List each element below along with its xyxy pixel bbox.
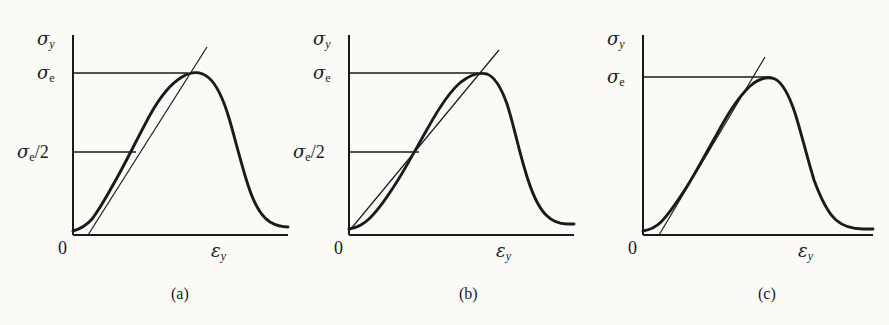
figure-stress-strain-sigma-e-definitions: σy σe σe/2 0 εy (a) σy σe σe/2 0 εy (b) [0,0,889,325]
panel-b-stress-strain-curve [349,73,574,229]
panel-c: σy σe 0 εy (c) [593,0,889,325]
panel-c-tangent-line [659,57,765,235]
panel-a: σy σe σe/2 0 εy (a) [0,0,296,325]
panel-c-stress-strain-curve [643,78,873,231]
panel-b-caption: (b) [459,286,478,302]
panel-b-sigma-e-label: σe [313,64,331,84]
panel-a-y-axis-label: σy [37,30,55,50]
panel-b: σy σe σe/2 0 εy (b) [296,0,592,325]
panel-b-plot [296,0,592,325]
panel-c-y-axis-label: σy [607,30,625,50]
panel-a-x-axis-label: εy [211,242,226,262]
panel-a-caption: (a) [171,286,189,302]
panel-c-sigma-e-label: σe [607,68,625,88]
panel-b-secant-line [350,50,499,230]
panel-c-x-axis-label: εy [798,242,813,262]
panel-c-plot [593,0,889,325]
panel-b-origin-label: 0 [334,239,343,257]
panel-c-origin-label: 0 [628,239,637,257]
panel-b-y-axis-label: σy [313,30,331,50]
panel-a-sigma-e-half-label: σe/2 [17,143,49,163]
panel-b-sigma-e-half-label: σe/2 [293,143,325,163]
panel-c-caption: (c) [758,286,776,302]
panel-a-origin-label: 0 [58,239,67,257]
panel-a-sigma-e-label: σe [37,64,55,84]
panel-b-x-axis-label: εy [496,242,511,262]
